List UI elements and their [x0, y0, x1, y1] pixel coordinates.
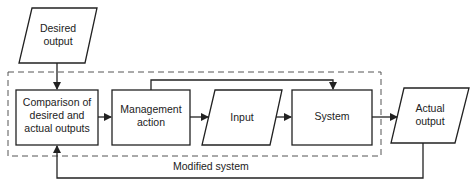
- flowchart-canvas: Desired output Comparison of desired and…: [0, 0, 473, 188]
- actual-output-line-2: output: [415, 115, 444, 127]
- input-label: Input: [230, 111, 253, 123]
- system-label: System: [314, 110, 349, 122]
- management-action-line-2: action: [137, 116, 165, 128]
- node-management-action: Management action: [112, 90, 190, 145]
- management-action-line-1: Management: [120, 103, 181, 115]
- node-system: System: [292, 90, 372, 145]
- desired-output-line-2: output: [43, 35, 72, 47]
- actual-output-line-1: Actual: [415, 102, 444, 114]
- comparison-line-1: Comparison of: [23, 96, 91, 108]
- node-comparison: Comparison of desired and actual outputs: [16, 90, 98, 145]
- comparison-line-2: desired and: [30, 109, 85, 121]
- comparison-line-3: actual outputs: [24, 122, 89, 134]
- modified-system-label: Modified system: [173, 160, 249, 172]
- desired-output-line-1: Desired: [40, 22, 76, 34]
- node-input: Input: [202, 90, 282, 145]
- edge-management-to-system: [151, 80, 333, 90]
- node-actual-output: Actual output: [391, 88, 469, 143]
- node-desired-output: Desired output: [19, 8, 97, 63]
